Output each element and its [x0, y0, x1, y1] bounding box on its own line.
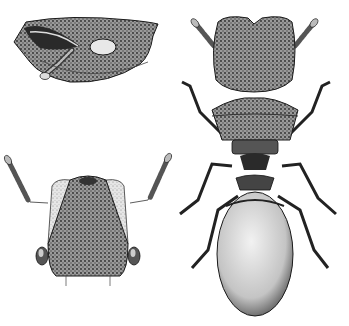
head-lateral-view — [14, 17, 158, 82]
body-dorsal-view — [180, 17, 336, 316]
figure-canvas — [0, 0, 349, 326]
head-frontal-view — [3, 152, 173, 286]
